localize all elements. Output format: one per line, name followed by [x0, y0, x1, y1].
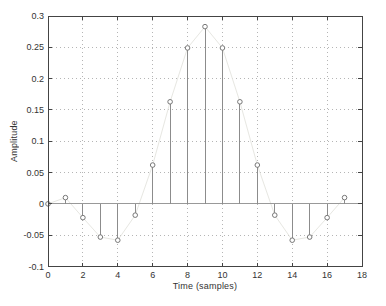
stem-marker: [185, 46, 190, 51]
stem-marker: [115, 238, 120, 243]
x-tick-label: 16: [322, 270, 332, 280]
x-axis-label: Time (samples): [48, 281, 362, 291]
y-tick-label: 0.15: [26, 105, 44, 115]
y-tick-label: 0.1: [31, 136, 44, 146]
stem-marker: [150, 163, 155, 168]
stem-marker: [220, 46, 225, 51]
stem-marker: [290, 238, 295, 243]
y-tick-label: 0: [39, 199, 44, 209]
x-tick-label: 18: [357, 270, 367, 280]
stem-marker: [168, 99, 173, 104]
stem-marker: [238, 99, 243, 104]
stem-marker: [133, 213, 138, 218]
stem-marker: [63, 195, 68, 200]
x-tick-label: 6: [150, 270, 155, 280]
x-tick-label: 0: [45, 270, 50, 280]
stem-marker: [203, 24, 208, 29]
stem-marker: [342, 195, 347, 200]
stem-marker: [255, 163, 260, 168]
y-tick-label: -0.1: [28, 262, 44, 272]
stem-marker: [98, 235, 103, 240]
interpolation-line: [48, 27, 345, 241]
stem-marker: [325, 215, 330, 220]
x-tick-label: 2: [80, 270, 85, 280]
stem-marker: [272, 213, 277, 218]
y-axis-label: Amplitude: [8, 16, 20, 267]
stem-marker: [81, 215, 86, 220]
x-tick-label: 8: [185, 270, 190, 280]
y-tick-label: 0.2: [31, 74, 44, 84]
y-tick-label: 0.3: [31, 11, 44, 21]
y-tick-label: 0.25: [26, 42, 44, 52]
x-tick-label: 14: [287, 270, 297, 280]
y-tick-label: -0.05: [23, 230, 44, 240]
matlab-figure: 024681012141618-0.1-0.0500.050.10.150.20…: [0, 0, 386, 306]
x-tick-label: 10: [217, 270, 227, 280]
x-tick-label: 12: [252, 270, 262, 280]
x-tick-label: 4: [115, 270, 120, 280]
y-tick-label: 0.05: [26, 168, 44, 178]
stem-chart: 024681012141618-0.1-0.0500.050.10.150.20…: [0, 0, 386, 306]
stem-marker: [307, 235, 312, 240]
